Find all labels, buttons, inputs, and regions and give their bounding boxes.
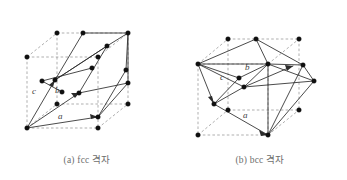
fcc-lattice-diagram: c b a	[0, 0, 174, 150]
figure-panel: c b a (a) fcc 격자	[0, 0, 347, 180]
arrowhead-b	[285, 65, 293, 71]
figure-fcc-lattice: c b a (a) fcc 격자	[0, 0, 174, 180]
fcc-vector-label-c: c	[32, 86, 36, 96]
caption-fcc: (a) fcc 격자	[0, 152, 174, 166]
figure-bcc-lattice: c b a (b) bcc 격자	[173, 0, 347, 180]
bcc-body-center-nodes	[212, 37, 317, 107]
bcc-lattice-diagram: c b a	[173, 0, 347, 150]
bcc-vector-label-b: b	[245, 62, 250, 72]
caption-bcc: (b) bcc 격자	[173, 152, 347, 166]
fcc-face-center-nodes	[40, 31, 131, 120]
bcc-vector-label-c: c	[220, 72, 224, 82]
fcc-vector-label-b: b	[55, 85, 60, 95]
bcc-primitive-cell-edges	[198, 39, 314, 135]
fcc-vector-label-a: a	[58, 111, 63, 121]
bcc-vector-label-a: a	[243, 110, 248, 120]
